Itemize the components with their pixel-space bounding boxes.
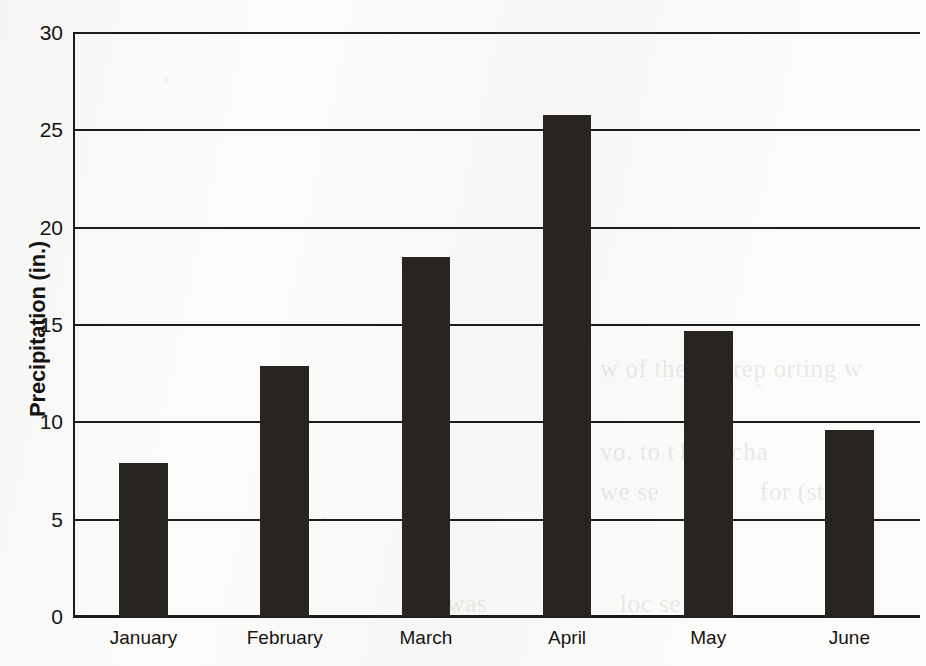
x-tick-label-may: May bbox=[690, 627, 726, 649]
y-tick-label-0: 0 bbox=[51, 605, 63, 629]
y-tick-label-20: 20 bbox=[40, 216, 63, 240]
gridline-30 bbox=[73, 32, 920, 34]
y-axis-line bbox=[73, 33, 75, 617]
bar-january bbox=[119, 463, 168, 617]
bar-may bbox=[684, 331, 733, 617]
x-tick-label-january: January bbox=[110, 627, 178, 649]
y-tick-label-15: 15 bbox=[40, 313, 63, 337]
y-tick-label-5: 5 bbox=[51, 508, 63, 532]
x-tick-label-february: February bbox=[247, 627, 323, 649]
y-tick-label-10: 10 bbox=[40, 410, 63, 434]
x-tick-label-march: March bbox=[400, 627, 453, 649]
bar-march bbox=[402, 257, 451, 617]
bar-february bbox=[260, 366, 309, 617]
gridline-5 bbox=[73, 519, 920, 521]
bar-april bbox=[543, 115, 592, 617]
gridline-25 bbox=[73, 129, 920, 131]
x-axis-line bbox=[73, 615, 920, 617]
plot-area: 051015202530 JanuaryFebruaryMarchAprilMa… bbox=[73, 33, 920, 617]
gridline-10 bbox=[73, 421, 920, 423]
chart-page: w of them rep orting wvo. to the n chawe… bbox=[0, 0, 926, 666]
gridline-15 bbox=[73, 324, 920, 326]
x-tick-label-june: June bbox=[829, 627, 870, 649]
y-tick-label-30: 30 bbox=[40, 21, 63, 45]
gridline-20 bbox=[73, 227, 920, 229]
y-tick-label-25: 25 bbox=[40, 118, 63, 142]
x-tick-label-april: April bbox=[548, 627, 586, 649]
bar-june bbox=[825, 430, 874, 617]
plot-inner: 051015202530 JanuaryFebruaryMarchAprilMa… bbox=[73, 33, 920, 617]
